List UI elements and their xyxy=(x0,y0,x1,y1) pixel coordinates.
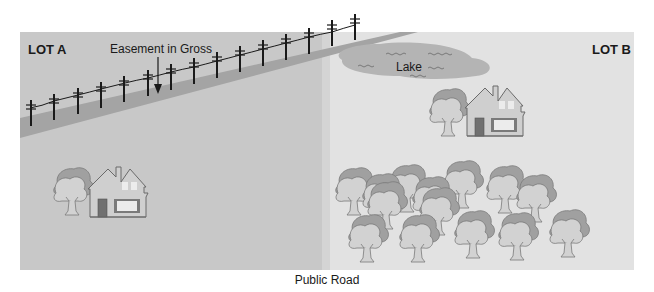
lot-a-label: LOT A xyxy=(28,42,67,57)
lake-label: Lake xyxy=(396,60,422,74)
easement-label: Easement in Gross xyxy=(110,42,212,56)
public-road-label: Public Road xyxy=(0,273,654,287)
property-diagram: LOT A LOT B Easement in Gross Lake xyxy=(0,0,654,292)
lot-b-label: LOT B xyxy=(592,42,631,57)
lot-boundary xyxy=(322,32,330,270)
